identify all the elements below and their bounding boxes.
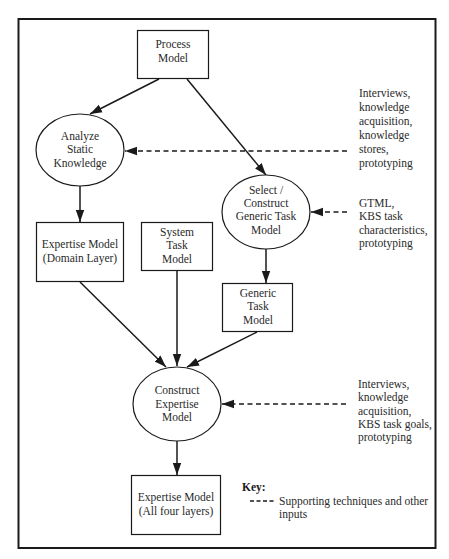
svg-text:Interviews,: Interviews,: [358, 378, 410, 391]
svg-text:Generic Task: Generic Task: [236, 210, 297, 222]
svg-text:characteristics,: characteristics,: [359, 224, 428, 237]
legend-entry: inputs: [279, 508, 308, 521]
svg-text:Knowledge: Knowledge: [53, 157, 106, 170]
node-label: Select /: [249, 184, 284, 196]
svg-text:Model: Model: [162, 411, 192, 423]
input-line: GTML,: [359, 197, 395, 210]
node-label: Expertise: [155, 398, 198, 411]
svg-text:System: System: [160, 226, 194, 239]
svg-text:acquisition,: acquisition,: [358, 405, 411, 418]
input-line: characteristics,: [359, 224, 428, 237]
node-label: Model: [251, 224, 281, 236]
svg-text:(All four layers): (All four layers): [139, 505, 214, 518]
input-line: prototyping: [358, 431, 412, 444]
node-generic-task-model: Generic Task Model: [223, 284, 293, 332]
input-line: acquisition,: [358, 405, 411, 418]
svg-text:Key:: Key:: [242, 481, 266, 494]
svg-text:knowledge: knowledge: [359, 129, 409, 142]
input-line: acquisition,: [359, 115, 412, 128]
input-line: Interviews,: [359, 87, 411, 100]
svg-text:prototyping: prototyping: [358, 431, 412, 444]
legend: Key: Supporting techniques and other inp…: [242, 481, 428, 521]
svg-text:Construct: Construct: [244, 197, 290, 209]
svg-text:Generic: Generic: [240, 287, 276, 299]
svg-text:Supporting techniques and othe: Supporting techniques and other: [279, 495, 428, 508]
svg-text:Select /: Select /: [249, 184, 284, 196]
edge-generic-to-construct: [187, 332, 257, 367]
input-line: KBS task goals,: [358, 418, 432, 431]
svg-text:Process: Process: [155, 38, 191, 50]
node-label: Generic Task: [236, 210, 297, 222]
svg-text:prototyping: prototyping: [359, 157, 413, 170]
node-label: (Domain Layer): [43, 252, 118, 265]
svg-text:Expertise Model: Expertise Model: [42, 238, 118, 251]
svg-text:prototyping: prototyping: [359, 237, 413, 250]
node-system-task-model: System Task Model: [142, 223, 213, 271]
node-analyze-static-knowledge: Analyze Static Knowledge: [36, 114, 124, 186]
node-label: Expertise Model: [42, 238, 118, 251]
svg-text:Interviews,: Interviews,: [359, 87, 411, 100]
node-label: Task: [247, 300, 269, 312]
input-line: Interviews,: [358, 378, 410, 391]
input-line: KBS task: [359, 210, 403, 222]
node-label: Generic: [240, 287, 276, 299]
node-label: System: [160, 226, 194, 239]
node-select-construct-generic-task-model: Select / Construct Generic Task Model: [222, 175, 310, 249]
svg-text:KBS task goals,: KBS task goals,: [358, 418, 432, 431]
svg-text:Task: Task: [166, 239, 188, 251]
node-expertise-model-all-four-layers: Expertise Model (All four layers): [132, 476, 221, 535]
svg-text:Model: Model: [243, 314, 273, 326]
input-line: prototyping: [359, 157, 413, 170]
input-line: knowledge: [359, 129, 409, 142]
node-label: Static: [67, 143, 93, 155]
inputs-select-text: GTML, KBS task characteristics, prototyp…: [359, 197, 428, 250]
node-label: Process: [155, 38, 191, 50]
svg-text:Model: Model: [251, 224, 281, 236]
node-label: Model: [162, 411, 192, 423]
node-label: Expertise Model: [138, 491, 214, 504]
node-process-model: Process Model: [138, 31, 209, 79]
svg-text:Expertise: Expertise: [155, 398, 198, 411]
node-label: (All four layers): [139, 505, 214, 518]
legend-title: Key:: [242, 481, 266, 494]
node-label: Model: [162, 253, 192, 265]
svg-text:Expertise Model: Expertise Model: [138, 491, 214, 504]
legend-entry: Supporting techniques and other: [279, 495, 428, 508]
svg-text:Construct: Construct: [155, 384, 201, 396]
svg-text:Static: Static: [67, 143, 93, 155]
node-label: Knowledge: [53, 157, 106, 170]
svg-text:Analyze: Analyze: [61, 130, 99, 143]
node-label: Construct: [244, 197, 290, 209]
svg-text:acquisition,: acquisition,: [359, 115, 412, 128]
input-line: stores,: [359, 143, 389, 156]
input-line: knowledge: [359, 101, 409, 114]
svg-text:KBS task: KBS task: [359, 210, 403, 222]
input-line: knowledge: [358, 391, 408, 404]
node-expertise-model-domain-layer: Expertise Model (Domain Layer): [37, 223, 124, 282]
node-label: Model: [158, 52, 188, 64]
svg-text:(Domain Layer): (Domain Layer): [43, 252, 118, 265]
edge-process-to-select: [187, 79, 266, 175]
svg-text:knowledge: knowledge: [358, 391, 408, 404]
node-label: Model: [243, 314, 273, 326]
svg-text:knowledge: knowledge: [359, 101, 409, 114]
inputs-construct-text: Interviews, knowledge acquisition, KBS t…: [358, 378, 432, 444]
inputs-analyze-text: Interviews, knowledge acquisition, knowl…: [359, 87, 413, 170]
svg-text:Model: Model: [162, 253, 192, 265]
svg-text:Model: Model: [158, 52, 188, 64]
input-line: prototyping: [359, 237, 413, 250]
diagram-canvas: Process Model Analyze Static Knowledge S…: [0, 0, 449, 559]
node-label: Analyze: [61, 130, 99, 143]
node-construct-expertise-model: Construct Expertise Model: [133, 367, 221, 441]
node-label: Task: [166, 239, 188, 251]
edge-process-to-analyze: [90, 79, 159, 114]
edge-expertise-domain-to-construct: [80, 282, 166, 367]
node-label: Construct: [155, 384, 201, 396]
svg-text:GTML,: GTML,: [359, 197, 395, 210]
svg-text:inputs: inputs: [279, 508, 308, 521]
svg-text:Task: Task: [247, 300, 269, 312]
svg-text:stores,: stores,: [359, 143, 389, 156]
